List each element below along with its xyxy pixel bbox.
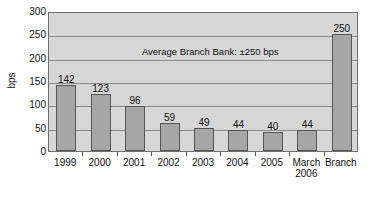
y-axis-tick-label: 300 xyxy=(20,7,46,17)
bar xyxy=(228,130,248,151)
bar-chart: bps 050100150200250300 14212396594944404… xyxy=(0,0,375,200)
x-axis-tick-mark xyxy=(186,152,187,156)
bar xyxy=(160,123,180,151)
x-axis-tick-mark xyxy=(151,152,152,156)
bar xyxy=(91,94,111,151)
x-axis-tick-label-line: Branch xyxy=(325,157,357,168)
bar-value-label: 96 xyxy=(115,96,155,106)
y-axis-tick-label: 50 xyxy=(20,124,46,134)
bar xyxy=(56,85,76,151)
plot-area: 142123965949444044250 Average Branch Ban… xyxy=(48,12,358,152)
bar-value-label: 123 xyxy=(81,84,121,94)
y-axis-tick-label: 200 xyxy=(20,54,46,64)
y-axis-tick-label: 150 xyxy=(20,77,46,87)
bar-value-label: 250 xyxy=(322,24,362,34)
bar-series: 142123965949444044250 xyxy=(49,13,357,151)
x-axis-tick-mark xyxy=(82,152,83,156)
y-axis-tick-label: 250 xyxy=(20,30,46,40)
y-axis-tick-label: 100 xyxy=(20,100,46,110)
x-axis-tick-mark xyxy=(117,152,118,156)
bar xyxy=(125,106,145,151)
chart-annotation: Average Branch Bank: ±250 bps xyxy=(142,46,279,57)
x-axis-tick-label-line: 2006 xyxy=(276,168,336,179)
bar xyxy=(263,132,283,151)
bar xyxy=(297,130,317,151)
x-axis-tick-mark xyxy=(255,152,256,156)
x-axis-tick-mark xyxy=(220,152,221,156)
y-axis-tick-labels: 050100150200250300 xyxy=(14,0,46,200)
bar xyxy=(194,128,214,151)
bar xyxy=(332,34,352,151)
y-axis-tick-label: 0 xyxy=(20,147,46,157)
bar-value-label: 44 xyxy=(287,120,327,130)
x-axis-tick-label: Branch xyxy=(311,157,371,168)
x-axis-tick-mark xyxy=(289,152,290,156)
x-axis-tick-mark xyxy=(324,152,325,156)
